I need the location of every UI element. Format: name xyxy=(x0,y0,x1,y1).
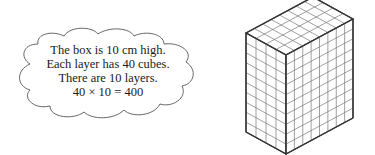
cube-box-diagram xyxy=(0,0,375,155)
